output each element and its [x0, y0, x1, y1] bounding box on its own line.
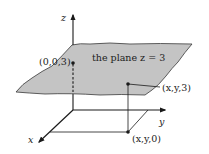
projection-line-y	[128, 110, 148, 132]
point-label-x-y-0: (x,y,0)	[132, 133, 161, 144]
x-axis	[39, 110, 73, 142]
z-axis-label: z	[60, 12, 67, 23]
plane-z-equals-3-diagram: z y x the plane z = 3 (0,0,3) (x,y,3) (x…	[0, 0, 209, 154]
point-label-x-y-3: (x,y,3)	[162, 82, 191, 93]
point-0-0-3	[71, 61, 75, 65]
point-label-0-0-3: (0,0,3)	[39, 56, 71, 67]
point-x-y-0	[126, 130, 130, 134]
x-axis-label: x	[28, 134, 34, 145]
plane-label: the plane z = 3	[92, 52, 165, 63]
point-x-y-3	[126, 82, 130, 86]
y-axis-label: y	[158, 116, 165, 127]
